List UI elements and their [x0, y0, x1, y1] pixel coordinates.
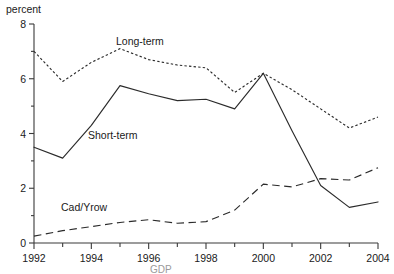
series-label-long-term: Long-term — [116, 35, 164, 47]
x-axis-ticks: 1992199419961998200020022004 — [22, 243, 390, 264]
series-line-short-term — [34, 73, 378, 207]
chart-canvas: percent 02468 19921994199619982000200220… — [0, 0, 394, 274]
line-chart-figure: percent 02468 19921994199619982000200220… — [0, 0, 394, 274]
y-tick-label: 0 — [20, 237, 26, 249]
chart-caption: GDP — [150, 264, 172, 274]
y-tick-label: 6 — [20, 73, 26, 85]
series-annotations: Long-termShort-termCad/Yrow — [61, 35, 164, 213]
x-tick-label: 2004 — [366, 252, 390, 264]
y-axis-title-group: percent — [6, 3, 41, 15]
caption-group: GDP — [150, 264, 172, 274]
y-axis-ticks: 02468 — [20, 18, 34, 249]
y-axis-title: percent — [6, 3, 41, 15]
x-tick-label: 1992 — [22, 252, 46, 264]
x-tick-label: 1996 — [137, 252, 161, 264]
series-label-cad-yrow: Cad/Yrow — [61, 201, 108, 213]
x-tick-label: 1998 — [194, 252, 218, 264]
x-tick-label: 1994 — [80, 252, 104, 264]
y-tick-label: 2 — [20, 182, 26, 194]
y-tick-label: 4 — [20, 128, 26, 140]
x-tick-label: 2000 — [252, 252, 276, 264]
y-tick-label: 8 — [20, 18, 26, 30]
series-label-short-term: Short-term — [88, 129, 138, 141]
x-tick-label: 2002 — [309, 252, 333, 264]
series-line-long-term — [34, 49, 378, 128]
